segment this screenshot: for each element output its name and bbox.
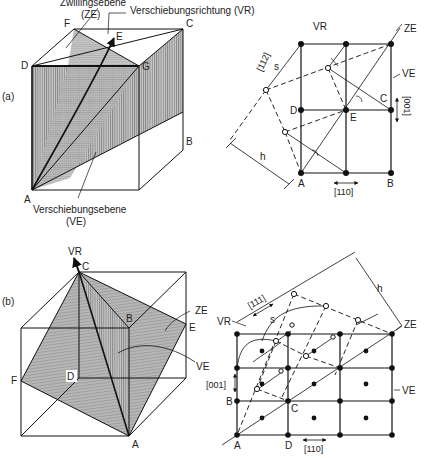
panel-label-b: (b) xyxy=(2,296,14,307)
label-vr: VR xyxy=(217,316,231,327)
panel-b-lattice: [111] s VR h ZE VE [001] B C A D [110] xyxy=(206,252,417,454)
point-A: A xyxy=(132,439,139,450)
point-F: F xyxy=(64,18,70,29)
label-ze: ZE xyxy=(404,23,417,34)
label-h: h xyxy=(377,283,383,294)
point-B: B xyxy=(186,136,193,147)
point-B: B xyxy=(387,178,394,189)
label-ve: VE xyxy=(402,68,416,79)
label-s: s xyxy=(270,314,275,325)
point-C: C xyxy=(380,93,387,104)
label-vr: VR xyxy=(313,21,327,32)
point-E: E xyxy=(116,31,123,42)
label-s: s xyxy=(274,61,279,72)
panel-a-cube: Zwillingsebene (ZE) Verschiebungsrichtun… xyxy=(2,0,255,227)
point-D: D xyxy=(67,371,74,382)
point-D: D xyxy=(290,105,297,116)
lattice-atoms-open xyxy=(263,65,330,134)
label-direction-112: [112] xyxy=(255,51,272,73)
point-E: E xyxy=(350,112,357,123)
panel-b-cube: VR C (b) B ZE E VE F D A xyxy=(2,246,210,450)
label-shear-plane-abbr: (VE) xyxy=(66,216,86,227)
point-F: F xyxy=(11,375,17,386)
label-twin-plane-abbr: (ZE) xyxy=(81,9,100,20)
label-h: h xyxy=(260,151,266,162)
label-twin-plane-title: Zwillingsebene xyxy=(60,0,127,8)
label-direction-001: [001] xyxy=(206,380,226,390)
point-D: D xyxy=(285,440,292,451)
label-vr: VR xyxy=(68,246,82,257)
lattice-atoms-filled xyxy=(234,331,395,438)
label-shear-direction: Verschiebungsrichtung (VR) xyxy=(130,5,255,16)
label-ve: VE xyxy=(402,385,416,396)
point-C: C xyxy=(82,261,89,272)
point-B: B xyxy=(226,396,233,407)
twinning-figure: Zwillingsebene (ZE) Verschiebungsrichtun… xyxy=(0,0,425,458)
panel-label-a: (a) xyxy=(2,91,14,102)
label-ze: ZE xyxy=(404,319,417,330)
label-direction-001: [001] xyxy=(402,96,412,116)
point-A: A xyxy=(298,178,305,189)
point-G: G xyxy=(142,61,150,72)
label-shear-plane-title: Verschiebungsebene xyxy=(33,204,127,215)
label-ze: ZE xyxy=(195,305,208,316)
point-C: C xyxy=(186,18,193,29)
point-C: C xyxy=(291,403,298,414)
point-B: B xyxy=(126,313,133,324)
label-direction-110: [110] xyxy=(334,187,353,197)
point-D: D xyxy=(21,60,28,71)
label-direction-111: [111] xyxy=(246,293,267,311)
point-A: A xyxy=(24,194,31,205)
label-direction-110: [110] xyxy=(304,444,323,454)
label-ve: VE xyxy=(196,361,210,372)
panel-a-lattice: VR ZE VE [112] s h D E C A B [110] [001] xyxy=(226,21,417,197)
point-E: E xyxy=(189,322,196,333)
point-A: A xyxy=(234,440,241,451)
